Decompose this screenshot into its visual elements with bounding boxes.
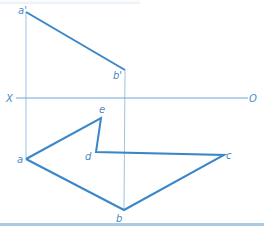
label-c: c xyxy=(226,150,232,161)
label-d: d xyxy=(85,151,92,162)
label-axis-o: O xyxy=(249,93,257,104)
projection-diagram: a' b' X O e d a c b xyxy=(0,0,264,226)
label-axis-x: X xyxy=(5,93,14,104)
bottom-rule xyxy=(0,223,264,226)
label-b-prime: b' xyxy=(113,70,122,81)
label-a: a xyxy=(17,154,23,165)
line-a-prime-b-prime xyxy=(26,12,125,70)
projection-line-b xyxy=(124,70,125,210)
label-a-prime: a' xyxy=(18,5,27,16)
label-e: e xyxy=(99,104,105,115)
